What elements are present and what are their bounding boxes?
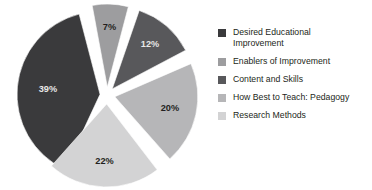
legend-item-label: Enablers of Improvement [233,56,330,67]
legend-item[interactable]: How Best to Teach: Pedagogy [218,92,370,103]
legend-item[interactable]: Enablers of Improvement [218,56,370,67]
legend-item-label: How Best to Teach: Pedagogy [233,92,349,103]
legend-color-swatch [218,58,226,66]
legend-item[interactable]: Content and Skills [218,74,370,85]
pie-slice-label: 39% [39,84,57,94]
pie-chart-figure: 39%7%12%20%22% Desired Educational Impro… [0,0,372,190]
pie-slice-label: 20% [161,103,179,113]
pie-slice-label: 22% [95,156,113,166]
legend-color-swatch [218,112,226,120]
chart-legend: Desired Educational ImprovementEnablers … [218,27,370,128]
legend-item[interactable]: Research Methods [218,110,370,121]
pie-svg: 39%7%12%20%22% [0,0,215,190]
legend-color-swatch [218,94,226,102]
legend-item-label: Desired Educational Improvement [233,27,311,48]
pie-slice-label: 12% [141,39,159,49]
pie-slice-label: 7% [103,22,116,32]
legend-color-swatch [218,76,226,84]
legend-color-swatch [218,29,226,37]
legend-item[interactable]: Desired Educational Improvement [218,27,370,48]
legend-item-label: Content and Skills [233,74,303,85]
legend-item-label: Research Methods [233,110,306,121]
pie-plot-area: 39%7%12%20%22% [0,0,215,190]
